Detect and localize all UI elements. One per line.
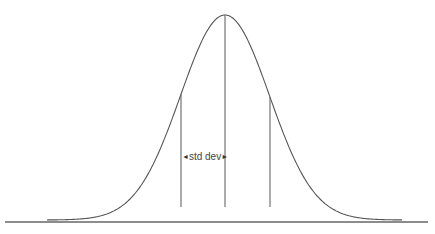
left-arrow-icon: ◄ [182,153,189,160]
right-arrow-icon: ► [221,153,228,160]
std-dev-label: ◄std dev► [182,151,225,163]
std-dev-text: std dev [189,151,221,162]
normal-distribution-diagram [0,0,435,234]
